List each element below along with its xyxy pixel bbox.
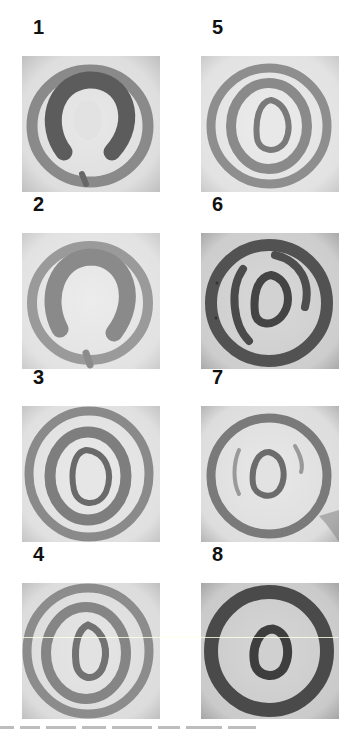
panel-label: 7 — [212, 366, 223, 388]
concentric-rings-pattern-image — [22, 583, 160, 719]
panel-image — [22, 406, 160, 542]
scan-artifact-line — [22, 637, 339, 638]
horseshoe-pattern-image — [22, 56, 160, 192]
panel-label: 3 — [33, 366, 44, 388]
panel-image — [22, 233, 160, 369]
panel-label: 2 — [33, 193, 44, 215]
panel-label: 5 — [212, 16, 223, 38]
concentric-rings-pattern-image — [201, 56, 339, 192]
figure: 1 2 — [0, 0, 358, 733]
core-with-arcs-pattern-image — [201, 233, 339, 369]
panel-image — [201, 56, 339, 192]
panel-label: 4 — [33, 543, 44, 565]
panel-image — [22, 56, 160, 192]
core-with-faint-arcs-pattern-image — [201, 406, 339, 542]
panel-image — [22, 583, 160, 719]
panel-image — [201, 583, 339, 719]
caption-fragment — [0, 726, 358, 733]
panel-label: 1 — [33, 16, 44, 38]
horseshoe-pattern-image — [22, 233, 160, 369]
concentric-rings-pattern-image — [22, 406, 160, 542]
panel-image — [201, 406, 339, 542]
panel-image — [201, 233, 339, 369]
panel-label: 6 — [212, 193, 223, 215]
panel-label: 8 — [212, 543, 223, 565]
thick-ring-pattern-image — [201, 583, 339, 719]
